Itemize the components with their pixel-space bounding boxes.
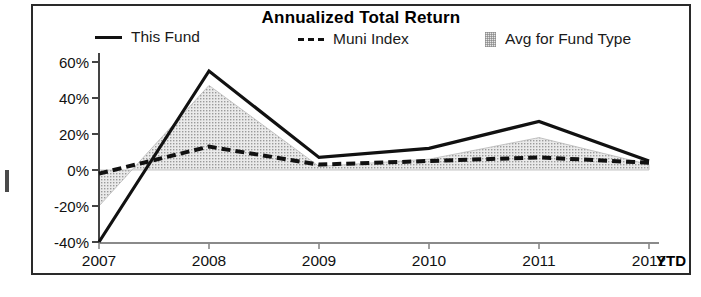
x-axis-labels: 200720082009201020112012 <box>95 252 663 276</box>
plot-area <box>95 62 663 242</box>
x-tick-label: 2011 <box>522 252 555 270</box>
x-axis-ytd-note: YTD <box>656 252 686 269</box>
y-tick-label: -40% <box>54 234 89 251</box>
chart-title: Annualized Total Return <box>33 8 689 28</box>
legend-item-avg-for-fund-type: Avg for Fund Type <box>483 30 631 48</box>
y-tick-label: -20% <box>54 198 89 215</box>
legend-item-muni-index: Muni Index <box>298 30 409 48</box>
x-tick-label: 2008 <box>192 252 226 270</box>
y-tick-label: 0% <box>67 162 89 179</box>
y-tick-label: 60% <box>59 54 89 71</box>
legend-item-this-fund: This Fund <box>95 28 200 46</box>
chart-plot-svg <box>95 62 663 242</box>
y-axis-labels: 60%40%20%0%-20%-40% <box>33 62 89 242</box>
area-fill-swatch-icon <box>485 32 496 47</box>
y-tick-label: 40% <box>59 90 89 107</box>
y-tick-label: 20% <box>59 126 89 143</box>
legend-label-avg-for-fund-type: Avg for Fund Type <box>505 30 631 48</box>
x-tick-label: 2007 <box>82 252 116 270</box>
chart-frame: Annualized Total Return This Fund Muni I… <box>31 4 691 275</box>
legend-label-this-fund: This Fund <box>131 28 200 46</box>
legend-label-muni-index: Muni Index <box>333 30 409 48</box>
solid-line-swatch-icon <box>95 36 122 39</box>
x-tick-label: 2010 <box>412 252 446 270</box>
x-tick-label: 2009 <box>302 252 336 270</box>
dashed-line-swatch-icon <box>298 38 324 41</box>
scan-edge-artifact <box>5 170 9 192</box>
